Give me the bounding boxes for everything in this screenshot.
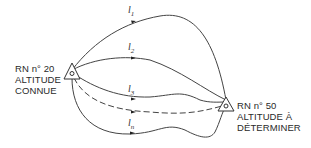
start-point-status: CONNUE <box>15 85 61 96</box>
path-label-l1: l1 <box>128 4 134 18</box>
end-point-altitude: ALTITUDE À <box>237 111 301 122</box>
arrow-l3-icon <box>131 98 136 101</box>
path-label-ln: ln <box>128 117 134 131</box>
path-dashed <box>74 78 222 113</box>
end-point-status: DÉTERMINER <box>237 122 301 133</box>
path-label-l2: l2 <box>128 41 134 55</box>
path-label-l3: l3 <box>128 83 134 97</box>
end-point-label: RN n° 50 ALTITUDE À DÉTERMINER <box>237 100 301 133</box>
path-l3 <box>74 74 226 102</box>
end-point-id: RN n° 50 <box>237 100 301 111</box>
benchmark-rn50-icon <box>218 97 234 111</box>
benchmark-rn20-icon <box>64 63 80 79</box>
start-point-id: RN n° 20 <box>15 63 61 74</box>
arrow-l2-icon <box>131 57 136 60</box>
path-l2 <box>72 58 226 100</box>
start-point-altitude: ALTITUDE <box>15 74 61 85</box>
start-point-label: RN n° 20 ALTITUDE CONNUE <box>15 63 61 96</box>
